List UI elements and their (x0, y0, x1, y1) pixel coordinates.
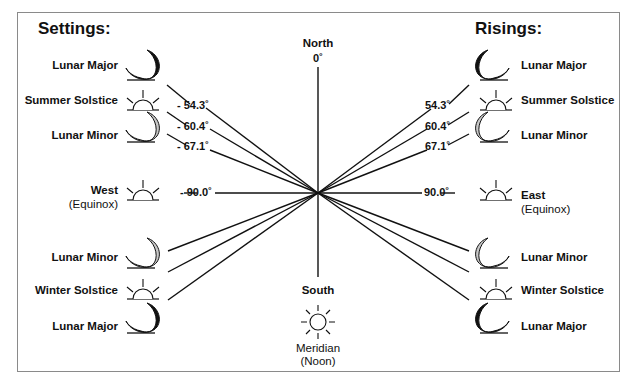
right-label-lunar-minor-2: Lunar Minor (521, 252, 587, 264)
moon-icon (476, 112, 509, 142)
sun-rising-icon (480, 90, 512, 110)
south-label: South (288, 285, 348, 297)
sun-rising-icon (480, 180, 512, 200)
meridian-label: Meridian (278, 343, 358, 355)
left-label-summer-solstice: Summer Solstice (25, 95, 118, 107)
right-label-lunar-minor: Lunar Minor (521, 130, 587, 142)
left-label-west: West (91, 185, 118, 197)
settings-heading: Settings: (38, 20, 111, 37)
moon-icon (126, 303, 159, 333)
right-label-winter-solstice: Winter Solstice (521, 285, 604, 297)
right-label-lunar-major: Lunar Major (521, 60, 587, 72)
angle-label: 60.4˚ (425, 121, 450, 132)
moon-icon (126, 50, 159, 80)
right-label-east: East (521, 190, 545, 202)
angle-label: - 67.1˚ (177, 141, 209, 152)
north-label: North (288, 38, 348, 50)
risings-heading: Risings: (475, 20, 542, 37)
right-sublabel-equinox: (Equinox) (521, 204, 570, 216)
angle-label: 67.1˚ (425, 141, 450, 152)
left-label-lunar-minor-2: Lunar Minor (52, 252, 118, 264)
angle-label: - 54.3˚ (177, 100, 209, 111)
moon-icon (476, 50, 509, 80)
azimuth-lines (167, 67, 469, 300)
right-label-summer-solstice: Summer Solstice (521, 95, 614, 107)
moon-icon (126, 238, 159, 268)
north-angle: 0˚ (298, 53, 338, 64)
left-label-lunar-major: Lunar Major (52, 60, 118, 72)
moon-icon (476, 238, 509, 268)
angle-label: 54.3˚ (425, 100, 450, 111)
right-label-lunar-major-2: Lunar Major (521, 321, 587, 333)
angle-label: - 60.4˚ (177, 121, 209, 132)
moon-icon (476, 303, 509, 333)
sun-rising-icon (127, 180, 159, 200)
meridian-sublabel: (Noon) (278, 356, 358, 368)
sun-rising-icon (127, 279, 159, 299)
left-label-winter-solstice: Winter Solstice (35, 285, 118, 297)
left-sublabel-equinox: (Equinox) (69, 199, 118, 211)
angle-label: 90.0˚ (424, 187, 449, 198)
sun-rising-icon (127, 90, 159, 110)
sun-rising-icon (480, 279, 512, 299)
angle-label: - 90.0˚ (180, 187, 212, 198)
left-label-lunar-major-2: Lunar Major (52, 321, 118, 333)
sun-full-icon (301, 305, 335, 339)
moon-icon (126, 112, 159, 142)
left-label-lunar-minor: Lunar Minor (52, 130, 118, 142)
